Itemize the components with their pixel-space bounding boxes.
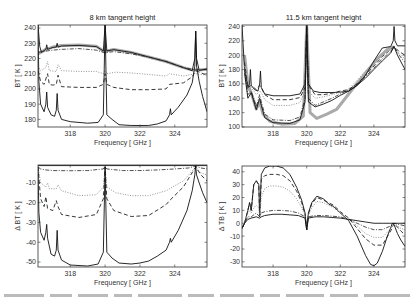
y-tick-label: 10	[232, 207, 240, 214]
x-tick-label: 322	[134, 270, 146, 277]
y-tick-label: 30	[232, 181, 240, 188]
x-tick-label: 320	[99, 130, 111, 137]
chart-title: 8 km tangent height	[90, 13, 157, 22]
x-tick-label: 318	[267, 270, 279, 277]
y-tick-label: 210	[24, 70, 36, 77]
y-tick-label: 190	[24, 101, 36, 108]
x-tick-label: 324	[169, 270, 181, 277]
x-axis-label: Frequency [ GHz ]	[94, 139, 151, 147]
x-tick-label: 318	[267, 130, 279, 137]
figure-caption-cutoff	[4, 291, 416, 297]
chart-bottom-left: 318320322324-50-40-30-20-10Frequency [ G…	[14, 165, 207, 287]
plot-area	[242, 25, 405, 127]
y-tick-label: 160	[228, 80, 240, 87]
y-tick-label: 0	[236, 220, 240, 227]
y-tick-label: 200	[24, 85, 36, 92]
y-tick-label: -50	[26, 258, 36, 265]
x-axis-label: Frequency [ GHz ]	[295, 279, 352, 287]
x-tick-label: 320	[301, 270, 313, 277]
chart-bottom-right: 318320322324-30-20-10010203040Frequency …	[218, 166, 405, 287]
chart-top-right: 31832032232410012014016018020022024011.5…	[218, 13, 405, 147]
y-tick-label: 230	[24, 40, 36, 47]
y-axis-label: Δ TB [ K ]	[218, 202, 226, 232]
y-tick-label: -30	[26, 219, 36, 226]
x-axis-label: Frequency [ GHz ]	[295, 139, 352, 147]
x-tick-label: 322	[334, 270, 346, 277]
y-tick-label: 100	[228, 123, 240, 130]
y-tick-label: -40	[26, 239, 36, 246]
y-tick-label: 240	[24, 24, 36, 31]
x-tick-label: 318	[64, 130, 76, 137]
x-tick-label: 324	[169, 130, 181, 137]
y-tick-label: 120	[228, 109, 240, 116]
y-tick-label: 200	[228, 52, 240, 59]
y-axis-label: BT [ K ]	[218, 64, 226, 87]
chart-title: 11.5 km tangent height	[286, 13, 363, 22]
y-tick-label: 180	[228, 66, 240, 73]
y-tick-label: 240	[228, 23, 240, 30]
y-tick-label: 180	[24, 116, 36, 123]
x-tick-label: 322	[334, 130, 346, 137]
x-tick-label: 320	[301, 130, 313, 137]
x-tick-label: 324	[368, 270, 380, 277]
y-tick-label: 40	[232, 168, 240, 175]
y-tick-label: -20	[26, 199, 36, 206]
x-tick-label: 324	[368, 130, 380, 137]
x-tick-label: 320	[99, 270, 111, 277]
x-axis-label: Frequency [ GHz ]	[94, 279, 151, 287]
y-tick-label: 220	[228, 37, 240, 44]
x-tick-label: 322	[134, 130, 146, 137]
y-tick-label: 140	[228, 95, 240, 102]
y-tick-label: -20	[230, 245, 240, 252]
chart-top-left: 3183203223241801902002102202302408 km ta…	[14, 13, 207, 147]
plot-area	[38, 165, 207, 267]
x-tick-label: 318	[64, 270, 76, 277]
y-tick-label: -30	[230, 258, 240, 265]
figure: 3183203223241801902002102202302408 km ta…	[0, 0, 419, 297]
y-tick-label: -10	[230, 233, 240, 240]
y-tick-label: 20	[232, 194, 240, 201]
y-axis-label: BT [ K ]	[14, 64, 22, 87]
y-axis-label: Δ BT [ K ]	[14, 201, 22, 231]
y-tick-label: -10	[26, 179, 36, 186]
y-tick-label: 220	[24, 55, 36, 62]
